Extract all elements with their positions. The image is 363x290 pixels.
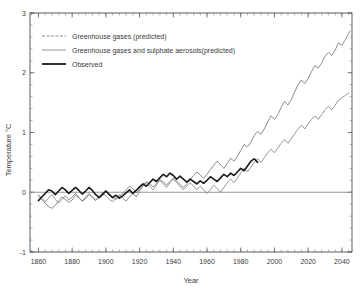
y-tick-label: 3 <box>22 10 26 17</box>
x-tick-label: 2000 <box>267 258 283 265</box>
chart-background <box>0 0 363 290</box>
y-tick-label: -1 <box>20 249 26 256</box>
legend-label: Greenhouse gases (predicted) <box>72 33 167 41</box>
x-tick-label: 1900 <box>98 258 114 265</box>
x-tick-label: 2020 <box>300 258 316 265</box>
legend-label: Greenhouse gases and sulphate aerosols(p… <box>72 47 235 55</box>
y-tick-label: 2 <box>22 69 26 76</box>
x-tick-label: 1980 <box>233 258 249 265</box>
x-tick-label: 1880 <box>64 258 80 265</box>
temperature-projection-chart: 1860188019001920194019601980200020202040… <box>0 0 363 290</box>
y-tick-label: 1 <box>22 129 26 136</box>
x-axis-title: Year <box>183 276 199 285</box>
x-tick-label: 1920 <box>132 258 148 265</box>
y-tick-label: 0 <box>22 189 26 196</box>
x-tick-label: 2040 <box>334 258 350 265</box>
x-tick-label: 1940 <box>166 258 182 265</box>
y-axis-title: Temperature °C <box>4 123 13 176</box>
legend-label: Observed <box>72 61 102 68</box>
x-tick-label: 1860 <box>31 258 47 265</box>
x-tick-label: 1960 <box>199 258 215 265</box>
